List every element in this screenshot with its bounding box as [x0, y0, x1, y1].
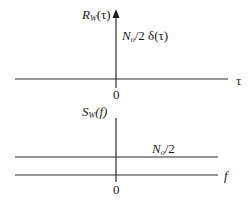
psd-level-label: No/2 [152, 142, 175, 157]
top-x-axis-label: τ [236, 74, 241, 87]
top-origin-label: 0 [113, 88, 120, 101]
white-noise-diagram: RW(τ) No/2 δ(τ) τ 0 SW(f) No/2 f 0 [0, 0, 251, 202]
psd-level-label-main: N [152, 141, 161, 156]
impulse-label-main: N [122, 28, 131, 43]
impulse-label: No/2 δ(τ) [122, 29, 168, 44]
top-y-axis-label: RW(τ) [82, 8, 111, 23]
bottom-x-axis-label: f [224, 169, 228, 182]
autocorrelation-plot [15, 9, 228, 88]
top-y-label-arg: (τ) [97, 7, 111, 22]
power-spectral-density-plot [15, 118, 218, 182]
psd-level-label-rest: /2 [165, 141, 175, 156]
top-y-label-sub: W [90, 14, 97, 23]
impulse-arrow-head [113, 9, 120, 18]
bottom-y-label-arg: (f) [95, 104, 107, 119]
bottom-y-axis-label: SW(f) [82, 105, 107, 120]
impulse-label-rest: /2 δ(τ) [135, 28, 168, 43]
bottom-origin-label: 0 [113, 183, 120, 196]
top-y-label-main: R [82, 7, 90, 22]
